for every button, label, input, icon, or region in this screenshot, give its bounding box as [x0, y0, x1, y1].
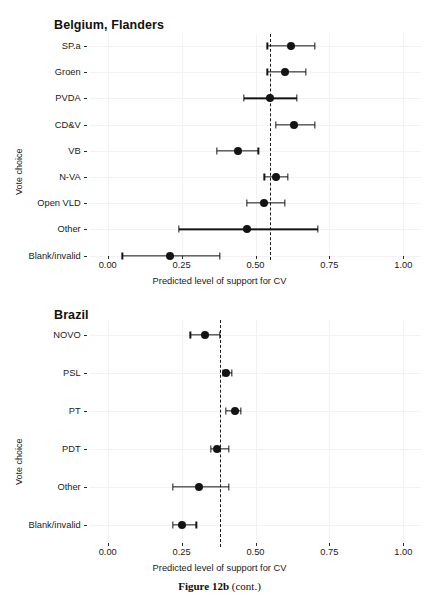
- category-tick-mark: [84, 256, 87, 257]
- gridline-vertical: [256, 320, 257, 543]
- gridline-horizontal: [90, 125, 422, 126]
- data-point[interactable]: [243, 225, 251, 233]
- gridline-vertical: [329, 34, 330, 256]
- category-label-psl: PSL: [0, 368, 81, 378]
- panel-belgium-flanders: Belgium, Flanders Vote choice SP.aGroenP…: [0, 0, 439, 300]
- category-tick-mark: [84, 411, 87, 412]
- category-label-groen: Groen: [0, 67, 81, 77]
- confidence-interval-cap-high: [228, 484, 229, 491]
- x-axis-tick-mark: [256, 543, 257, 546]
- data-point[interactable]: [195, 483, 203, 491]
- figure-12b: Belgium, Flanders Vote choice SP.aGroenP…: [0, 0, 439, 610]
- confidence-interval-cap-low: [122, 252, 123, 259]
- x-axis-tick-label: 1.00: [394, 547, 412, 557]
- x-axis-tick-mark: [108, 256, 109, 259]
- gridline-horizontal: [90, 177, 422, 178]
- category-tick-mark: [84, 46, 87, 47]
- confidence-interval-cap-high: [314, 43, 315, 50]
- category-label-n-va: N-VA: [0, 172, 81, 182]
- plot-area-brazil: NOVOPSLPTPDTOtherBlank/invalid0.000.250.…: [0, 300, 439, 563]
- category-label-blank-invalid: Blank/invalid: [0, 251, 81, 261]
- gridline-vertical: [256, 34, 257, 256]
- category-label-sp-a: SP.a: [0, 41, 81, 51]
- category-label-pt: PT: [0, 406, 81, 416]
- category-tick-mark: [84, 487, 87, 488]
- gridline-vertical: [108, 34, 109, 256]
- confidence-interval-cap-low: [172, 522, 173, 529]
- x-axis-tick-mark: [182, 543, 183, 546]
- x-axis-tick-label: 0.25: [173, 260, 191, 270]
- gridline-horizontal: [90, 373, 422, 374]
- category-label-vb: VB: [0, 146, 81, 156]
- reference-line-dashed: [270, 34, 271, 260]
- confidence-interval-cap-low: [246, 200, 247, 207]
- gridline-horizontal: [90, 72, 422, 73]
- data-point[interactable]: [260, 199, 268, 207]
- gridline-vertical: [403, 34, 404, 256]
- category-label-pdt: PDT: [0, 444, 81, 454]
- confidence-interval-cap-low: [178, 226, 179, 233]
- x-axis-tick-label: 0.75: [320, 547, 338, 557]
- figure-caption-suffix: (cont.): [229, 580, 261, 592]
- category-tick-mark: [84, 98, 87, 99]
- gridline-vertical: [108, 320, 109, 543]
- x-axis-tick-label: 0.00: [99, 547, 117, 557]
- gridline-vertical: [403, 320, 404, 543]
- x-axis-tick-label: 0.50: [246, 260, 264, 270]
- panel-brazil: Brazil Vote choice NOVOPSLPTPDTOtherBlan…: [0, 300, 439, 575]
- category-tick-mark: [84, 229, 87, 230]
- confidence-interval-cap-low: [264, 174, 265, 181]
- confidence-interval-cap-low: [225, 408, 226, 415]
- category-tick-mark: [84, 125, 87, 126]
- plot-area-belgium: SP.aGroenPVDACD&VVBN-VAOpen VLDOtherBlan…: [0, 0, 439, 276]
- confidence-interval-cap-high: [296, 95, 297, 102]
- x-axis-tick-mark: [403, 543, 404, 546]
- figure-caption: Figure 12b (cont.): [0, 580, 439, 592]
- data-point[interactable]: [281, 68, 289, 76]
- confidence-interval-cap-high: [219, 252, 220, 259]
- confidence-interval-cap-high: [284, 200, 285, 207]
- category-tick-mark: [84, 203, 87, 204]
- confidence-interval-cap-low: [243, 95, 244, 102]
- category-label-pvda: PVDA: [0, 93, 81, 103]
- category-tick-mark: [84, 151, 87, 152]
- gridline-horizontal: [90, 449, 422, 450]
- gridline-vertical: [182, 320, 183, 543]
- data-point[interactable]: [272, 173, 280, 181]
- data-point[interactable]: [178, 521, 186, 529]
- x-axis-tick-label: 0.50: [246, 547, 264, 557]
- data-point[interactable]: [266, 94, 274, 102]
- data-point[interactable]: [201, 331, 209, 339]
- x-axis-tick-mark: [182, 256, 183, 259]
- data-point[interactable]: [231, 407, 239, 415]
- x-axis-label-brazil: Predicted level of support for CV: [0, 563, 439, 573]
- x-axis-label-belgium: Predicted level of support for CV: [0, 276, 439, 286]
- gridline-horizontal: [90, 411, 422, 412]
- data-point[interactable]: [213, 445, 221, 453]
- data-point[interactable]: [166, 252, 174, 260]
- confidence-interval-cap-high: [231, 370, 232, 377]
- confidence-interval-cap-high: [305, 69, 306, 76]
- x-axis-tick-label: 0.00: [99, 260, 117, 270]
- confidence-interval-cap-low: [190, 332, 191, 339]
- data-point[interactable]: [222, 369, 230, 377]
- x-axis-tick-label: 0.25: [173, 547, 191, 557]
- category-label-cd-v: CD&V: [0, 120, 81, 130]
- confidence-interval-cap-low: [216, 147, 217, 154]
- x-axis-tick-mark: [329, 256, 330, 259]
- confidence-interval-cap-high: [196, 522, 197, 529]
- confidence-interval-cap-high: [240, 408, 241, 415]
- category-tick-mark: [84, 373, 87, 374]
- category-tick-mark: [84, 525, 87, 526]
- x-axis-tick-mark: [108, 543, 109, 546]
- confidence-interval-cap-high: [317, 226, 318, 233]
- gridline-horizontal: [90, 46, 422, 47]
- data-point[interactable]: [234, 147, 242, 155]
- data-point[interactable]: [287, 42, 295, 50]
- category-label-open-vld: Open VLD: [0, 198, 81, 208]
- gridline-horizontal: [90, 525, 422, 526]
- data-point[interactable]: [290, 121, 298, 129]
- x-axis-tick-mark: [256, 256, 257, 259]
- confidence-interval-cap-low: [267, 69, 268, 76]
- category-label-novo: NOVO: [0, 330, 81, 340]
